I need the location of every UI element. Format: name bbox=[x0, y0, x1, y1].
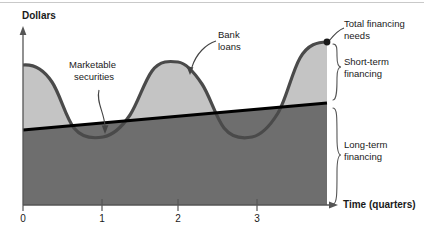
y-axis-arrowhead bbox=[20, 26, 27, 35]
total-financing-needs-marker bbox=[324, 39, 331, 46]
annotation-short-term-financing-line2: financing bbox=[344, 68, 382, 80]
short-term-financing-brace bbox=[333, 44, 341, 100]
x-axis-arrowhead bbox=[329, 202, 338, 209]
annotation-total-financing-needs-line1: Total financing bbox=[344, 18, 405, 30]
x-tick-label-3: 3 bbox=[249, 213, 265, 224]
bank-loans-leader bbox=[192, 41, 216, 67]
x-axis-label: Time (quarters) bbox=[343, 199, 416, 211]
x-tick-label-0: 0 bbox=[15, 213, 31, 224]
annotation-long-term-financing-line1: Long-term bbox=[344, 139, 387, 151]
x-tick-label-1: 1 bbox=[94, 213, 110, 224]
annotation-long-term-financing-line2: financing bbox=[344, 151, 382, 163]
annotation-bank-loans-line1: Bank bbox=[218, 29, 240, 41]
x-tick-label-2: 2 bbox=[170, 213, 186, 224]
y-axis-label: Dollars bbox=[22, 10, 56, 22]
total-financing-needs-leader bbox=[329, 28, 344, 41]
annotation-marketable-securities-line1: Marketable bbox=[69, 59, 116, 71]
long-term-financing-brace bbox=[333, 108, 341, 204]
annotation-short-term-financing-line1: Short-term bbox=[344, 56, 389, 68]
annotation-marketable-securities-line2: securities bbox=[74, 71, 114, 83]
annotation-bank-loans-line2: loans bbox=[218, 41, 241, 53]
financing-needs-chart: Dollars Time (quarters) Marketable secur… bbox=[0, 0, 424, 235]
marketable-securities-leader bbox=[98, 90, 105, 126]
annotation-total-financing-needs-line2: needs bbox=[344, 30, 370, 42]
